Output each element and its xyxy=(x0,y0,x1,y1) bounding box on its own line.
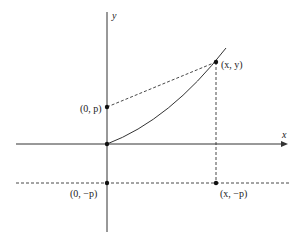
focus-label: (0, p) xyxy=(80,103,102,115)
curve-point-dot xyxy=(214,60,218,64)
curve-point-label: (x, y) xyxy=(221,59,243,71)
x-axis-arrow-icon xyxy=(281,141,288,147)
directrix-point-label: (x, −p) xyxy=(220,188,247,200)
x-axis-label: x xyxy=(281,129,287,140)
focus-dot xyxy=(105,105,109,109)
directrix-point-dot xyxy=(214,181,218,185)
y-axis-label: y xyxy=(111,10,117,21)
origin-dot xyxy=(105,142,109,146)
directrix-y-label: (0, −p) xyxy=(70,188,97,200)
focus-to-point-line xyxy=(107,62,216,107)
parabola-diagram: y x (0, p) (x, y) (0, −p) (x, −p) xyxy=(0,0,304,244)
parabola-curve xyxy=(107,48,226,144)
directrix-y-dot xyxy=(105,181,109,185)
